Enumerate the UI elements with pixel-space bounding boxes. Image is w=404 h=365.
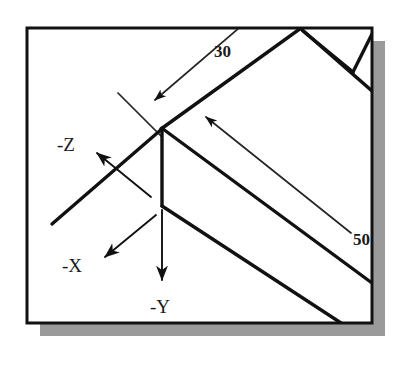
figure-root: 30 50 -Z -X -Y [0,0,404,365]
technical-drawing-canvas: 30 50 -Z -X -Y [0,0,404,365]
axis-label-neg-y: -Y [150,296,170,317]
drawing-border [27,28,372,323]
dimension-label-50: 50 [353,230,370,249]
axis-label-neg-z: -Z [57,134,75,155]
dimension-label-30: 30 [214,42,231,61]
axis-label-neg-x: -X [62,255,82,276]
